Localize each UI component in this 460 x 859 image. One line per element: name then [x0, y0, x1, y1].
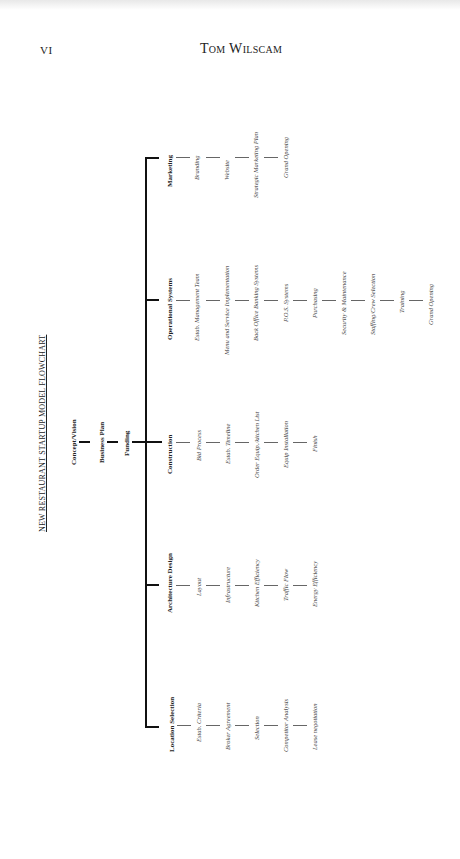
- connector: [235, 585, 249, 586]
- branch-tick-marketing: [145, 157, 159, 159]
- step-grand-opening-operations: Grand Opening: [428, 284, 435, 325]
- node-funding: Funding: [124, 431, 131, 456]
- connector: [264, 442, 278, 443]
- connector: [264, 585, 278, 586]
- branch-tick-architecture: [145, 584, 159, 586]
- step-traffic-flow: Traffic Flow: [283, 569, 290, 601]
- connector: [264, 300, 278, 301]
- flowchart-title: NEW RESTAURANT STARTUP MODEL FLOWCHART: [39, 335, 47, 532]
- connector: [206, 442, 220, 443]
- branch-tick-location: [145, 726, 159, 728]
- connector: [409, 300, 423, 301]
- branch-header-operational-systems: Operational Systems: [167, 278, 174, 340]
- step-broker-agreement: Broker Agreement: [225, 703, 232, 750]
- step-strategic-marketing-plan: Strategic Marketing Plan: [253, 132, 260, 198]
- branch-header-construction: Construction: [167, 435, 174, 474]
- node-concept-vision: Concept/Vision: [71, 419, 78, 465]
- connector: [206, 157, 220, 158]
- connector: [264, 157, 278, 158]
- branch-header-location-selection: Location Selection: [169, 697, 176, 752]
- connector-funding-spine: [132, 441, 162, 443]
- step-security-maintenance: Security & Maintenance: [341, 271, 348, 335]
- step-menu-service-implementation: Menu and Service Implementation: [224, 266, 231, 355]
- step-finish: Finish: [312, 435, 319, 452]
- step-staffing-crew-selection: Staffing/Crew Selection: [370, 274, 377, 335]
- connector: [322, 300, 336, 301]
- connector: [293, 300, 307, 301]
- connector: [293, 442, 307, 443]
- connector: [235, 725, 249, 726]
- connector: [206, 300, 220, 301]
- branch-header-architecture-design: Architecture Design: [167, 553, 174, 613]
- step-energy-efficiency: Energy Efficiency: [312, 561, 319, 607]
- connector: [235, 300, 249, 301]
- branch-tick-operational: [145, 299, 159, 301]
- connector: [176, 157, 190, 158]
- page-edge-shadow: [0, 0, 460, 10]
- connector: [176, 442, 190, 443]
- step-back-office-banking: Back Office Banking Systems: [253, 265, 260, 341]
- step-grand-opening-marketing: Grand Opening: [283, 137, 290, 178]
- connector-business-funding: [107, 441, 118, 443]
- step-bid-process: Bid Process: [196, 430, 203, 461]
- connector: [177, 725, 191, 726]
- branch-header-marketing: Marketing: [167, 155, 174, 187]
- step-website: Website: [224, 160, 231, 180]
- connector: [293, 585, 307, 586]
- step-layout: Layout: [196, 578, 203, 596]
- connector: [206, 585, 220, 586]
- page-number: VI: [40, 44, 53, 56]
- step-pos-systems: P.O.S. Systems: [283, 284, 290, 322]
- node-business-plan: Business Plan: [99, 422, 106, 463]
- running-head-author: Tom Wilscam: [200, 41, 282, 57]
- step-purchasing: Purchasing: [312, 288, 319, 318]
- step-branding: Branding: [194, 155, 201, 180]
- connector: [176, 585, 190, 586]
- step-estab-management-team: Estab. Management Team: [194, 274, 201, 341]
- step-estab-criteria: Estab. Criteria: [196, 703, 203, 742]
- main-spine-line: [145, 157, 147, 728]
- connector: [380, 300, 394, 301]
- connector: [235, 442, 249, 443]
- connector: [351, 300, 365, 301]
- step-kitchen-efficiency: Kitchen Efficiency: [254, 559, 261, 607]
- connector-concept-business: [79, 441, 90, 443]
- connector: [293, 725, 307, 726]
- step-lease-negotiation: Lease negotiation: [312, 704, 319, 750]
- step-selection: Selection: [254, 716, 261, 740]
- connector: [206, 725, 220, 726]
- step-competitor-analysis: Competitor Analysis: [283, 699, 290, 752]
- step-order-equip-kitchen-list: Order Equip./kitchen List: [254, 412, 261, 478]
- connector: [235, 157, 249, 158]
- connector: [264, 725, 278, 726]
- step-equip-installation: Equip Installation: [283, 421, 290, 468]
- step-training: Training: [399, 291, 406, 313]
- step-infrastructure: Infrastructure: [225, 567, 232, 603]
- connector: [176, 300, 190, 301]
- step-estab-timeline: Estab. Timeline: [225, 424, 232, 464]
